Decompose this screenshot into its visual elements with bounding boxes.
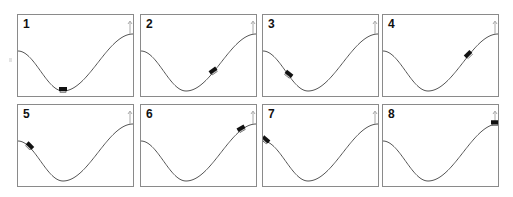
stray-mark (9, 58, 12, 62)
flag-icon (373, 111, 377, 124)
valley-curve (18, 105, 133, 186)
valley-curve (383, 105, 498, 186)
flag-icon (373, 21, 377, 34)
valley-curve (141, 15, 256, 96)
panel-4: 4 (382, 14, 499, 97)
panel-5: 5 (17, 104, 134, 187)
valley-curve (263, 15, 378, 96)
flag-icon (128, 21, 132, 34)
panel-6: 6 (140, 104, 257, 187)
panel-number-label: 3 (268, 18, 275, 30)
panel-8: 8 (382, 104, 499, 187)
panel-number-label: 1 (23, 18, 30, 30)
panel-1: 1 (17, 14, 134, 97)
panel-number-label: 7 (268, 108, 275, 120)
valley-curve (263, 105, 378, 186)
panel-2: 2 (140, 14, 257, 97)
panel-number-label: 6 (146, 108, 153, 120)
flag-icon (251, 111, 255, 124)
car-icon (59, 87, 67, 92)
flag-icon (251, 21, 255, 34)
car-icon (237, 124, 247, 133)
panel-number-label: 2 (146, 18, 153, 30)
valley-curve (383, 15, 498, 96)
panel-number-label: 8 (388, 108, 395, 120)
valley-curve (141, 105, 256, 186)
flag-icon (493, 21, 497, 34)
flag-icon (128, 111, 132, 124)
car-icon (25, 141, 34, 150)
panel-number-label: 5 (23, 108, 30, 120)
panel-7: 7 (262, 104, 379, 187)
panel-3: 3 (262, 14, 379, 97)
panel-number-label: 4 (388, 18, 395, 30)
car-icon (491, 120, 498, 125)
valley-curve (18, 15, 133, 96)
